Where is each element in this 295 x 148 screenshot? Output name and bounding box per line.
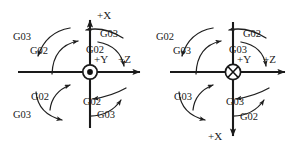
left-ur-inner-label: G02 xyxy=(86,44,104,55)
right-ll-inner-label: G03 xyxy=(174,91,192,102)
right-lr-outer-label: G02 xyxy=(240,111,258,122)
right-ur-outer-label: G02 xyxy=(243,28,261,39)
left-ll-inner-arc xyxy=(50,85,70,110)
left-ul-inner-arc xyxy=(52,41,78,74)
left-ur-outer-label: G03 xyxy=(100,28,118,39)
figure-root: +X +Z +Y G03 G02 G03 G02 G02 G03 G02 G03 xyxy=(0,0,295,148)
right-ul-inner-arc xyxy=(196,41,221,74)
left-center-dot-icon xyxy=(87,69,93,75)
left-x-axis-label: +X xyxy=(97,9,111,21)
left-ul-outer-label: G03 xyxy=(13,31,31,42)
diagram-canvas: +X +Z +Y G03 G02 G03 G02 G02 G03 G02 G03 xyxy=(0,0,295,148)
right-diagram: +X +Z +Y G02 G03 G02 G03 G03 G03 G02 xyxy=(156,22,285,142)
left-ll-inner-label: G02 xyxy=(31,91,49,102)
left-lr-inner-label: G02 xyxy=(83,96,101,107)
left-ll-outer-label: G03 xyxy=(13,109,31,120)
left-ul-inner-label: G02 xyxy=(30,45,48,56)
left-lr-outer-label: G03 xyxy=(97,109,115,120)
right-x-axis-label: +X xyxy=(208,130,222,142)
right-ll-inner-arc xyxy=(193,85,213,110)
left-diagram: +X +Z +Y G03 G02 G03 G02 G02 G03 G02 G03 xyxy=(13,9,140,128)
right-ur-inner-label: G03 xyxy=(229,44,247,55)
right-lr-inner-label: G03 xyxy=(226,96,244,107)
right-ul-inner-label: G03 xyxy=(173,45,191,56)
right-ul-outer-label: G02 xyxy=(156,31,174,42)
